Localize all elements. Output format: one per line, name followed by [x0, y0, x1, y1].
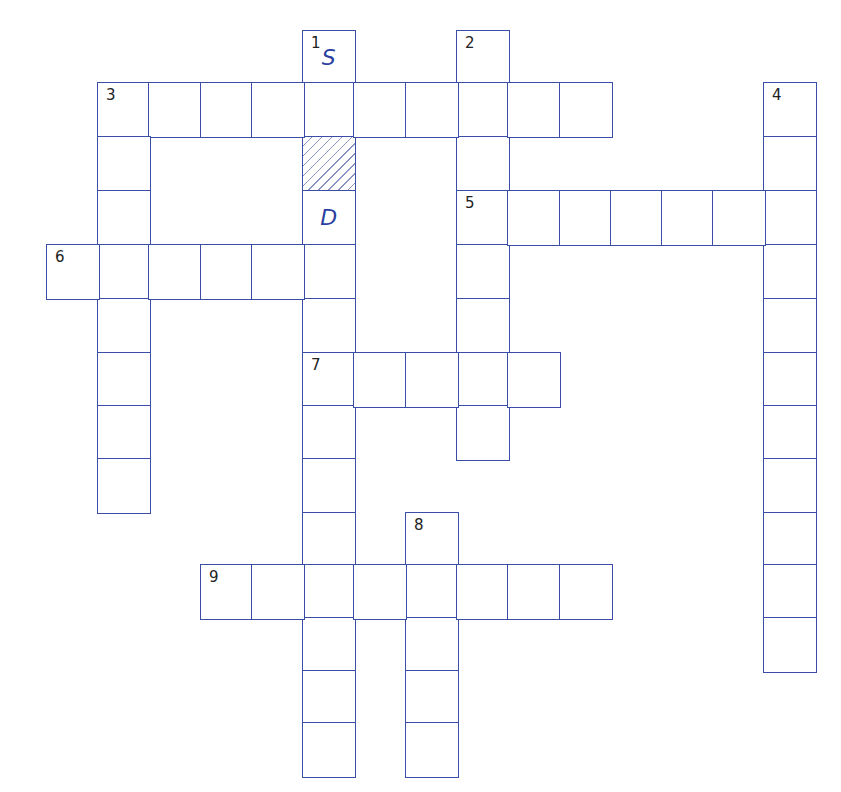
- crossword-cell[interactable]: [405, 617, 459, 673]
- crossword-cell[interactable]: [302, 512, 356, 568]
- crossword-cell[interactable]: [456, 244, 510, 300]
- crossword-cell[interactable]: [148, 82, 202, 138]
- crossword-cell[interactable]: [302, 564, 356, 620]
- crossword-cell[interactable]: [97, 298, 151, 354]
- crossword-cell[interactable]: 4: [763, 82, 817, 138]
- clue-number: 2: [465, 36, 475, 51]
- crossword-cell[interactable]: [405, 82, 459, 138]
- crossword-cell[interactable]: [97, 405, 151, 461]
- crossword-cell[interactable]: [353, 352, 407, 408]
- crossword-cell[interactable]: [763, 352, 817, 408]
- crossword-cell[interactable]: [507, 82, 561, 138]
- crossword-cell[interactable]: [251, 82, 305, 138]
- crossword-cell[interactable]: 2: [456, 30, 510, 86]
- crossword-cell[interactable]: [405, 564, 459, 620]
- crossword-cell[interactable]: [251, 564, 305, 620]
- crossword-cell[interactable]: [97, 190, 151, 246]
- crossword-cell[interactable]: 3: [97, 82, 151, 138]
- crossword-cell[interactable]: [302, 458, 356, 514]
- crossword-cell[interactable]: [507, 352, 561, 408]
- clue-number: 7: [311, 358, 321, 373]
- crossword-cell[interactable]: [302, 617, 356, 673]
- crossword-cell[interactable]: [97, 352, 151, 408]
- crossword-cell[interactable]: 1S: [302, 30, 356, 86]
- crossword-cell[interactable]: [763, 512, 817, 568]
- crossword-cell[interactable]: [763, 617, 817, 673]
- filled-letter: D: [303, 205, 355, 230]
- crossword-cell[interactable]: [763, 190, 817, 246]
- clue-number: 5: [465, 196, 475, 211]
- crossword-cell[interactable]: [712, 190, 766, 246]
- crossword-cell[interactable]: [763, 298, 817, 354]
- crossword-cell[interactable]: [302, 670, 356, 726]
- crossword-cell[interactable]: [97, 244, 151, 300]
- crossword-cell[interactable]: [97, 458, 151, 514]
- crossword-cell[interactable]: [302, 82, 356, 138]
- crossword-cell[interactable]: [456, 564, 510, 620]
- clue-number: 3: [106, 88, 116, 103]
- crossword-cell[interactable]: [610, 190, 664, 246]
- crossword-cell[interactable]: [200, 82, 254, 138]
- crossword-cell[interactable]: [302, 298, 356, 354]
- crossword-grid: 1SD72534689: [0, 0, 841, 792]
- crossword-cell[interactable]: [200, 244, 254, 300]
- blocked-cell: [302, 136, 356, 192]
- crossword-cell[interactable]: [302, 405, 356, 461]
- crossword-cell[interactable]: [251, 244, 305, 300]
- crossword-cell[interactable]: [405, 722, 459, 778]
- crossword-cell[interactable]: [559, 564, 613, 620]
- clue-number: 4: [772, 88, 782, 103]
- crossword-cell[interactable]: [559, 82, 613, 138]
- crossword-cell[interactable]: 7: [302, 352, 356, 408]
- crossword-cell[interactable]: [405, 670, 459, 726]
- crossword-cell[interactable]: 5: [456, 190, 510, 246]
- crossword-cell[interactable]: [763, 564, 817, 620]
- crossword-cell[interactable]: [763, 405, 817, 461]
- crossword-cell[interactable]: [559, 190, 613, 246]
- crossword-cell[interactable]: [456, 352, 510, 408]
- crossword-cell[interactable]: [456, 405, 510, 461]
- clue-number: 8: [414, 518, 424, 533]
- clue-number: 6: [55, 250, 65, 265]
- filled-letter: S: [303, 45, 355, 70]
- crossword-cell[interactable]: [456, 82, 510, 138]
- crossword-cell[interactable]: [302, 722, 356, 778]
- crossword-cell[interactable]: D: [302, 190, 356, 246]
- crossword-cell[interactable]: [661, 190, 715, 246]
- crossword-cell[interactable]: [353, 564, 407, 620]
- crossword-cell[interactable]: 8: [405, 512, 459, 568]
- crossword-cell[interactable]: [507, 564, 561, 620]
- crossword-cell[interactable]: [763, 136, 817, 192]
- crossword-cell[interactable]: [302, 244, 356, 300]
- crossword-cell[interactable]: 6: [46, 244, 100, 300]
- crossword-cell[interactable]: 9: [200, 564, 254, 620]
- crossword-cell[interactable]: [507, 190, 561, 246]
- crossword-cell[interactable]: [763, 458, 817, 514]
- crossword-cell[interactable]: [148, 244, 202, 300]
- crossword-cell[interactable]: [456, 136, 510, 192]
- crossword-cell[interactable]: [405, 352, 459, 408]
- crossword-cell[interactable]: [456, 298, 510, 354]
- crossword-cell[interactable]: [353, 82, 407, 138]
- clue-number: 9: [209, 570, 219, 585]
- crossword-cell[interactable]: [97, 136, 151, 192]
- crossword-cell[interactable]: [763, 244, 817, 300]
